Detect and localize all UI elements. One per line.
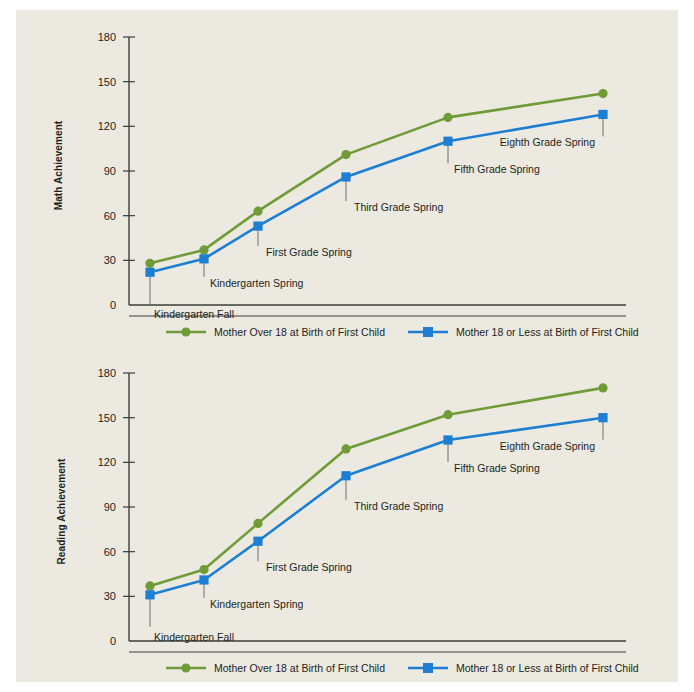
point-label: Third Grade Spring <box>354 500 443 512</box>
data-point-circle <box>341 444 350 453</box>
data-point-square <box>341 471 350 480</box>
figure-canvas: Math Achievement 0306090120150180Kinderg… <box>16 10 678 682</box>
point-label: Fifth Grade Spring <box>454 163 540 175</box>
point-label: Kindergarten Fall <box>154 308 234 320</box>
data-point-circle <box>199 245 208 254</box>
chart-panel-reading: Reading Achievement 0306090120150180Kind… <box>16 346 678 682</box>
y-tick-label: 180 <box>98 31 116 43</box>
y-tick-label: 30 <box>104 254 116 266</box>
y-tick-label: 0 <box>110 299 116 311</box>
reading-achievement-plot: 0306090120150180Kindergarten FallKinderg… <box>16 346 678 682</box>
series-line-over18 <box>150 94 603 264</box>
data-point-circle <box>145 259 154 268</box>
data-point-square <box>598 413 607 422</box>
y-tick-label: 0 <box>110 635 116 647</box>
data-point-circle <box>145 581 154 590</box>
data-point-square <box>253 221 262 230</box>
legend-circle-marker <box>181 327 190 336</box>
point-label: First Grade Spring <box>266 246 352 258</box>
data-point-square <box>199 575 208 584</box>
y-tick-label: 60 <box>104 546 116 558</box>
y-tick-label: 120 <box>98 456 116 468</box>
data-point-square <box>443 137 452 146</box>
math-achievement-plot: 0306090120150180Kindergarten FallKinderg… <box>16 10 678 346</box>
point-label: Kindergarten Fall <box>154 631 234 643</box>
data-point-circle <box>443 113 452 122</box>
legend-circle-marker <box>181 663 190 672</box>
data-point-circle <box>253 207 262 216</box>
point-label: Eighth Grade Spring <box>500 136 595 148</box>
y-tick-label: 150 <box>98 76 116 88</box>
data-point-square <box>253 537 262 546</box>
data-point-square <box>341 172 350 181</box>
data-point-square <box>145 268 154 277</box>
legend-label-under18: Mother 18 or Less at Birth of First Chil… <box>456 326 639 338</box>
y-tick-label: 30 <box>104 590 116 602</box>
point-label: Kindergarten Spring <box>210 277 304 289</box>
point-label: First Grade Spring <box>266 561 352 573</box>
data-point-circle <box>443 410 452 419</box>
point-label: Fifth Grade Spring <box>454 462 540 474</box>
y-tick-label: 60 <box>104 210 116 222</box>
legend-square-marker <box>423 327 433 337</box>
legend-label-over18: Mother Over 18 at Birth of First Child <box>214 326 385 338</box>
legend-square-marker <box>423 663 433 673</box>
data-point-square <box>199 254 208 263</box>
point-label: Eighth Grade Spring <box>500 440 595 452</box>
series-line-over18 <box>150 388 603 586</box>
point-label: Kindergarten Spring <box>210 598 304 610</box>
y-tick-label: 90 <box>104 501 116 513</box>
data-point-circle <box>253 519 262 528</box>
y-tick-label: 150 <box>98 412 116 424</box>
data-point-square <box>145 590 154 599</box>
legend-label-under18: Mother 18 or Less at Birth of First Chil… <box>456 662 639 674</box>
legend-label-over18: Mother Over 18 at Birth of First Child <box>214 662 385 674</box>
data-point-circle <box>598 89 607 98</box>
data-point-circle <box>199 565 208 574</box>
y-tick-label: 90 <box>104 165 116 177</box>
chart-panel-math: Math Achievement 0306090120150180Kinderg… <box>16 10 678 346</box>
y-tick-label: 120 <box>98 120 116 132</box>
y-tick-label: 180 <box>98 367 116 379</box>
data-point-circle <box>598 383 607 392</box>
point-label: Third Grade Spring <box>354 201 443 213</box>
data-point-circle <box>341 150 350 159</box>
data-point-square <box>443 435 452 444</box>
data-point-square <box>598 110 607 119</box>
